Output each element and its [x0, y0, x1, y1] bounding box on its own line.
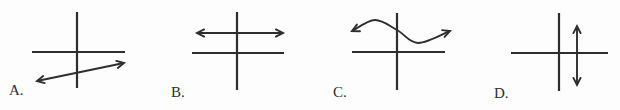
panel-a: A.: [9, 12, 125, 98]
line-positive-slope-double-arrow-below-x-axis: [37, 63, 124, 81]
panel-label-a: A.: [9, 82, 24, 98]
panel-label-c: C.: [333, 84, 347, 100]
panel-b: B.: [171, 12, 284, 100]
graphs-svg: A.B.C.D.: [0, 0, 620, 110]
worksheet-figure: A.B.C.D.: [0, 0, 620, 110]
panel-label-b: B.: [171, 84, 185, 100]
wavy-curve-double-arrow-above-x-axis: [352, 20, 450, 43]
panel-c: C.: [333, 13, 450, 100]
panel-label-d: D.: [494, 85, 509, 101]
panel-d: D.: [494, 13, 608, 101]
